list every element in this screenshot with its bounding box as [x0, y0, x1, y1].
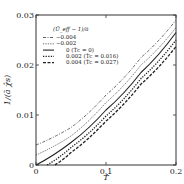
x-axis-label: T̂ — [103, 173, 109, 182]
y-tick-label: 0 — [29, 161, 34, 170]
chart: 00.10.200.010.020.03T̂1/(ā χ̂s)(Ū_eff − … — [0, 0, 184, 184]
legend-title: (Ū_eff − 1)/ā — [53, 26, 89, 33]
legend-label: −0.004 — [56, 34, 77, 40]
y-tick-label: 0.03 — [16, 11, 34, 20]
legend-label: 0 (T̂c = 0) — [66, 46, 94, 53]
series-line — [36, 28, 176, 156]
legend-label: 0.004 (T̂c = 0.027) — [66, 58, 118, 65]
y-axis-label: 1/(ā χ̂s) — [3, 75, 12, 105]
y-tick-label: 0.01 — [16, 111, 34, 120]
plot-area: 00.10.200.010.020.03T̂1/(ā χ̂s)(Ū_eff − … — [3, 11, 182, 182]
x-tick-label: 0.2 — [170, 167, 183, 176]
y-tick-label: 0.02 — [16, 61, 34, 70]
legend-label: −0.002 — [56, 40, 76, 46]
x-tick-label: 0 — [33, 167, 38, 176]
legend-label: 0.002 (T̂c = 0.016) — [66, 52, 118, 59]
